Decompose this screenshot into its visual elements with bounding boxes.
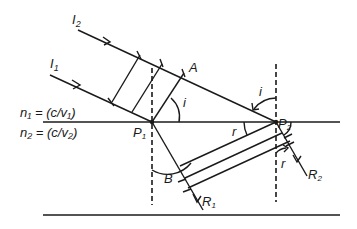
incident-wavefront xyxy=(112,55,140,102)
label-I1: I1 xyxy=(50,56,59,73)
label-P1: P1 xyxy=(133,125,146,141)
refracted-wavefront xyxy=(188,141,290,188)
label-R2: R2 xyxy=(308,167,322,183)
label-medium-2: n₂ = (c/v₂) xyxy=(20,125,77,140)
label-A: A xyxy=(188,60,198,75)
angle-i-arc xyxy=(171,98,179,122)
label-P2: P2 xyxy=(278,116,292,132)
wavefront-tick xyxy=(183,189,191,192)
arrow-icon xyxy=(193,194,201,202)
refracted-wavefront xyxy=(180,122,276,166)
label-I2: I2 xyxy=(72,12,81,29)
label-B: B xyxy=(164,171,173,186)
wavefront-tick xyxy=(178,179,186,182)
label-angle-i: i xyxy=(183,95,187,110)
incident-wavefront xyxy=(132,64,162,112)
label-angle-i-right: i xyxy=(259,84,263,99)
point-P1-dot xyxy=(151,121,153,123)
refracted-ray-1 xyxy=(152,122,203,210)
refraction-diagram: I2 I1 A i i P2 P1 r r B R1 R2 n₁ = (c/v₁… xyxy=(0,0,357,229)
label-angle-r-right: r xyxy=(281,156,286,171)
angle-i-arc-right xyxy=(254,98,276,109)
point-P2-dot xyxy=(275,121,277,123)
angle-r-arc xyxy=(244,122,247,135)
label-medium-1: n₁ = (c/v₁) xyxy=(20,105,76,120)
label-R1: R1 xyxy=(202,194,216,210)
refracted-wavefront xyxy=(185,133,282,178)
label-angle-r: r xyxy=(232,124,237,139)
